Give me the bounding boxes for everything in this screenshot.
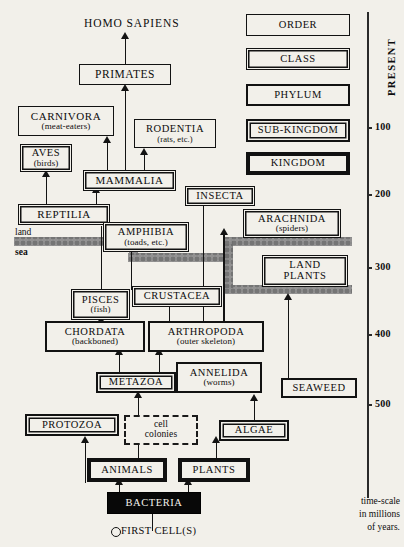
axis-caption-line-3: of years. xyxy=(330,521,400,534)
time-axis-line xyxy=(367,12,369,498)
taxon-box-arthropoda[interactable]: ARTHROPODA (outer skeleton) xyxy=(148,321,264,352)
first-cells-label: FIRST CELL(S) xyxy=(121,525,196,536)
legend-item-phylum[interactable]: PHYLUM xyxy=(246,84,350,106)
taxon-box-bacteria[interactable]: BACTERIA xyxy=(107,492,201,514)
sea-label: sea xyxy=(15,247,28,257)
axis-caption: time-scale in millions of years. xyxy=(330,495,400,533)
axis-ticklabel-300: 300 xyxy=(375,261,391,272)
connector-cellcolonies-metazoa xyxy=(138,395,140,415)
connector-seaweed-landplants xyxy=(288,297,290,378)
taxon-box-cell-colonies[interactable]: cell colonies xyxy=(124,415,198,445)
axis-tick-200 xyxy=(367,194,372,196)
sea-band-mid xyxy=(128,253,231,262)
connector-algae-seaweed xyxy=(254,398,256,422)
taxon-box-land-plants[interactable]: LAND PLANTS xyxy=(262,255,348,287)
axis-ticklabel-100: 100 xyxy=(375,121,391,132)
arrowhead-protozoa xyxy=(81,436,89,443)
taxon-box-primates[interactable]: PRIMATES xyxy=(79,64,171,85)
connector-metazoa-chordata xyxy=(119,352,121,372)
axis-caption-line-2: in millions xyxy=(330,508,400,521)
connector-reptilia-aves xyxy=(46,174,48,204)
taxon-box-plants[interactable]: PLANTS xyxy=(178,458,250,482)
taxon-box-protozoa[interactable]: PROTOZOA xyxy=(25,414,119,436)
arrowhead-carnivora xyxy=(103,136,111,143)
taxon-box-rodentia[interactable]: RODENTIA (rats, etc.) xyxy=(134,119,216,148)
axis-tick-300 xyxy=(367,267,372,269)
connector-mammalia-primates xyxy=(125,88,127,170)
axis-title-present: PRESENT xyxy=(386,38,397,96)
sea-band-right-upper xyxy=(231,237,352,246)
connector-mammalia-carnivora xyxy=(107,140,109,170)
arrowhead-rodentia xyxy=(140,148,148,155)
taxon-box-pisces[interactable]: PISCES (fish) xyxy=(71,289,130,320)
arrowhead-landplants xyxy=(284,293,292,300)
axis-ticklabel-200: 200 xyxy=(375,188,391,199)
taxon-box-amphibia[interactable]: AMPHIBIA (toads, etc.) xyxy=(103,222,189,252)
arrowhead-homosapiens xyxy=(121,32,129,39)
axis-tick-500 xyxy=(367,404,372,406)
homo-sapiens-label: HOMO SAPIENS xyxy=(84,17,179,29)
taxon-box-chordata[interactable]: CHORDATA (backboned) xyxy=(45,321,145,352)
legend-item-class[interactable]: CLASS xyxy=(246,48,350,70)
arrowhead-primates xyxy=(121,84,129,91)
arrowhead-seaweed xyxy=(250,394,258,401)
axis-ticklabel-500: 500 xyxy=(375,398,391,409)
connector-arthropoda-arachnida xyxy=(223,233,225,321)
connector-pisces-reptilia xyxy=(101,226,103,289)
taxon-box-mammalia[interactable]: MAMMALIA xyxy=(83,170,176,191)
taxon-box-seaweed[interactable]: SEAWEED xyxy=(281,378,357,398)
taxon-box-algae[interactable]: ALGAE xyxy=(219,420,289,441)
connector-pisces-amphibia xyxy=(131,250,133,290)
connector-animals-protozoa xyxy=(85,440,87,483)
taxon-box-animals[interactable]: ANIMALS xyxy=(87,458,167,482)
arrowhead-arachnida xyxy=(220,228,228,235)
first-cells-marker-icon xyxy=(111,527,121,537)
taxon-box-aves[interactable]: AVES (birds) xyxy=(20,144,72,172)
sea-band-vertical-right xyxy=(224,244,233,289)
taxon-box-carnivora[interactable]: CARNIVORA (meat-eaters) xyxy=(18,106,114,136)
connector-primates-homosapiens xyxy=(125,36,127,64)
taxon-box-arachnida[interactable]: ARACHNIDA (spiders) xyxy=(243,209,341,238)
taxon-box-metazoa[interactable]: METAZOA xyxy=(96,372,176,393)
legend-item-sub-kingdom[interactable]: SUB-KINGDOM xyxy=(246,119,350,142)
taxon-box-reptilia[interactable]: REPTILIA xyxy=(18,204,110,225)
taxon-box-annelida[interactable]: ANNELIDA (worms) xyxy=(176,362,262,393)
axis-ticklabel-400: 400 xyxy=(375,328,391,339)
legend-item-order[interactable]: ORDER xyxy=(246,14,350,36)
legend-item-kingdom[interactable]: KINGDOM xyxy=(246,152,350,175)
axis-caption-line-1: time-scale xyxy=(330,495,400,508)
taxon-box-insecta[interactable]: INSECTA xyxy=(185,186,255,206)
evolution-diagram: HOMO SAPIENS PRIMATES CARNIVORA (meat-ea… xyxy=(0,0,404,547)
land-label: land xyxy=(15,227,31,237)
axis-tick-100 xyxy=(367,127,372,129)
taxon-box-crustacea[interactable]: CRUSTACEA xyxy=(132,286,222,307)
connector-metazoa-arthropoda xyxy=(159,352,161,372)
axis-tick-400 xyxy=(367,334,372,336)
